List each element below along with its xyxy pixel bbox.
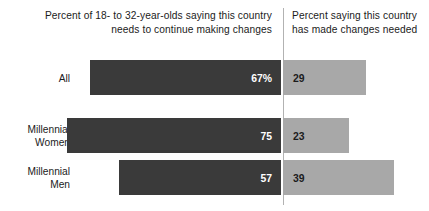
row-label: Millennial Women (0, 123, 70, 149)
chart-row: Millennial Men 57 39 (0, 160, 429, 195)
bar-segment-right: 29 (283, 60, 366, 95)
bar-segment-right: 23 (283, 118, 349, 153)
bar-value-left: 67% (251, 72, 272, 83)
bar-segment-left: 67% (90, 60, 281, 95)
bar-value-right: 23 (293, 130, 305, 141)
bar-segment-left: 57 (119, 160, 281, 195)
bar-value-left: 75 (260, 130, 272, 141)
bar-value-right: 39 (293, 172, 305, 183)
row-label-line-1: Millennial (0, 123, 70, 136)
row-label: Millennial Men (0, 165, 70, 191)
left-column-header: Percent of 18- to 32-year-olds saying th… (40, 9, 272, 36)
bar-value-left: 57 (260, 172, 272, 183)
bar-value-right: 29 (293, 72, 305, 83)
row-label-line-2: Women (0, 136, 70, 149)
row-label-line-1: Millennial (0, 165, 70, 178)
right-column-header: Percent saying this country has made cha… (292, 9, 424, 36)
row-label: All (0, 71, 70, 84)
chart-row: All 67% 29 (0, 60, 429, 95)
row-label-line-1: All (0, 71, 70, 84)
bar-segment-left: 75 (67, 118, 281, 153)
chart-row: Millennial Women 75 23 (0, 118, 429, 153)
chart-container: Percent of 18- to 32-year-olds saying th… (0, 0, 429, 211)
row-label-line-2: Men (0, 178, 70, 191)
bar-segment-right: 39 (283, 160, 394, 195)
